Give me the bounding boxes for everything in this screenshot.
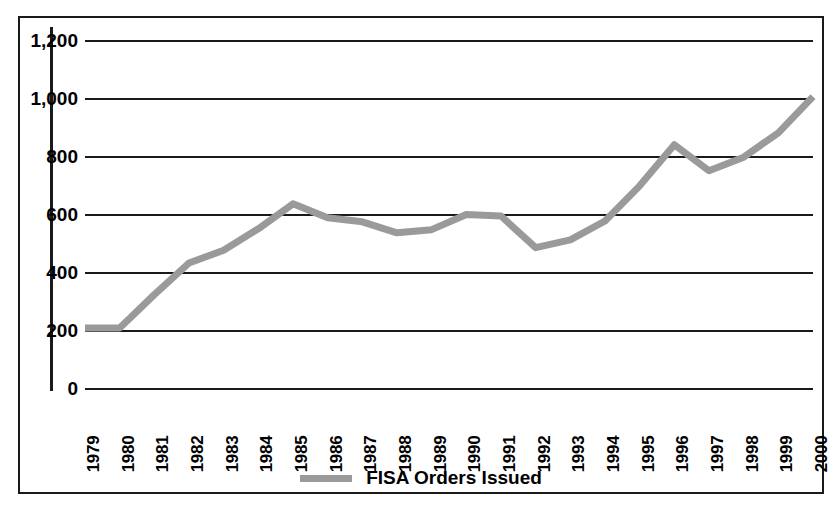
x-tick-1980: 1980 [104, 392, 136, 468]
y-tick-label-1200: 1,200 [30, 31, 78, 50]
y-tick-label-600: 600 [46, 205, 78, 224]
x-tick-1985: 1985 [277, 392, 309, 468]
x-tick-1984: 1984 [242, 392, 274, 468]
x-tick-1993: 1993 [554, 392, 586, 468]
legend-label-fisa-orders-issued: FISA Orders Issued [366, 467, 542, 489]
x-tick-1987: 1987 [346, 392, 378, 468]
series-line-0 [85, 97, 813, 328]
x-tick-1990: 1990 [450, 392, 482, 468]
x-tick-1999: 1999 [762, 392, 794, 468]
y-tick-label-200: 200 [46, 321, 78, 340]
x-axis-tick-labels: 1979198019811982198319841985198619871988… [85, 392, 813, 472]
x-tick-1994: 1994 [589, 392, 621, 468]
x-tick-1996: 1996 [658, 392, 690, 468]
x-tick-1986: 1986 [312, 392, 344, 468]
chart-legend: FISA Orders Issued [18, 462, 824, 494]
x-tick-1988: 1988 [381, 392, 413, 468]
x-tick-1983: 1983 [208, 392, 240, 468]
fisa-orders-line-chart: 1,2001,0008006004002000 1979198019811982… [0, 0, 840, 519]
x-tick-1991: 1991 [485, 392, 517, 468]
x-tick-1979: 1979 [69, 392, 101, 468]
x-tick-1998: 1998 [728, 392, 760, 468]
x-tick-1981: 1981 [138, 392, 170, 468]
x-tick-2000: 2000 [797, 392, 829, 468]
x-tick-1989: 1989 [416, 392, 448, 468]
data-series-layer [85, 40, 813, 388]
legend-line-swatch [300, 475, 352, 482]
x-tick-1982: 1982 [173, 392, 205, 468]
x-tick-1997: 1997 [693, 392, 725, 468]
x-tick-1995: 1995 [624, 392, 656, 468]
x-tick-1992: 1992 [520, 392, 552, 468]
y-tick-label-400: 400 [46, 263, 78, 282]
y-tick-label-1000: 1,000 [30, 89, 78, 108]
y-axis-tick-labels: 1,2001,0008006004002000 [0, 0, 78, 519]
gridline-0 [85, 388, 813, 390]
y-tick-label-800: 800 [46, 147, 78, 166]
plot-area [85, 40, 813, 388]
